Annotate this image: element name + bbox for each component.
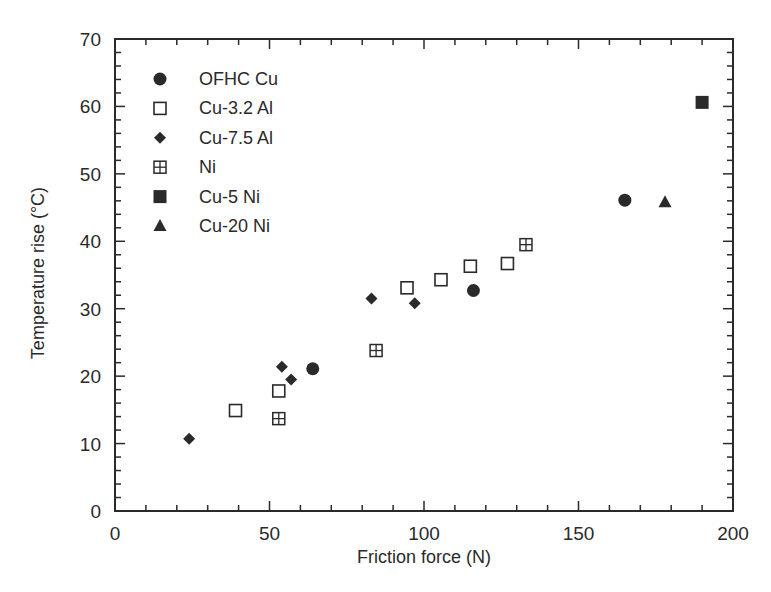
data-point-ofhc-cu — [306, 362, 319, 375]
data-point-cu-3-2-al — [273, 385, 285, 397]
legend-marker-ni-icon — [154, 161, 166, 173]
data-point-ni — [370, 345, 382, 357]
legend: OFHC CuCu-3.2 AlCu-7.5 AlNiCu-5 NiCu-20 … — [154, 69, 279, 236]
data-point-cu-7-5-al — [365, 293, 377, 305]
data-point-cu-7-5-al — [285, 374, 297, 386]
data-point-ofhc-cu — [467, 284, 480, 297]
data-point-ofhc-cu — [618, 194, 631, 207]
y-tick-label: 50 — [80, 164, 101, 185]
x-tick-label: 200 — [717, 523, 749, 544]
legend-marker-cu-7-5-al-icon — [154, 132, 166, 144]
data-points — [183, 96, 708, 445]
legend-marker-ofhc-cu-icon — [154, 73, 167, 86]
y-tick-label: 20 — [80, 366, 101, 387]
legend-label-cu-20-ni: Cu-20 Ni — [199, 216, 270, 236]
data-point-cu-3-2-al — [230, 405, 242, 417]
x-tick-label: 50 — [259, 523, 280, 544]
y-tick-label: 10 — [80, 434, 101, 455]
y-tick-label: 0 — [90, 501, 101, 522]
legend-marker-cu-20-ni-icon — [154, 219, 167, 231]
data-point-cu-7-5-al — [276, 361, 288, 373]
data-point-cu-20-ni — [659, 195, 672, 207]
legend-marker-cu-5-ni-icon — [154, 190, 167, 203]
data-point-cu-5-ni — [696, 96, 709, 109]
scatter-chart: 050100150200010203040506070 OFHC CuCu-3.… — [0, 0, 771, 592]
data-point-cu-3-2-al — [464, 260, 476, 272]
tick-labels: 050100150200010203040506070 — [80, 29, 749, 544]
y-axis-title: Temperature rise (°C) — [28, 187, 48, 359]
y-tick-label: 70 — [80, 29, 101, 50]
data-point-cu-3-2-al — [501, 258, 513, 270]
legend-label-ni: Ni — [199, 157, 216, 177]
x-tick-label: 100 — [408, 523, 440, 544]
x-axis-title: Friction force (N) — [357, 547, 491, 567]
legend-label-ofhc-cu: OFHC Cu — [199, 69, 278, 89]
legend-label-cu-3-2-al: Cu-3.2 Al — [199, 98, 273, 118]
y-tick-label: 30 — [80, 299, 101, 320]
data-point-ni — [273, 413, 285, 425]
data-point-cu-3-2-al — [435, 274, 447, 286]
data-point-cu-7-5-al — [409, 297, 421, 309]
data-point-cu-7-5-al — [183, 433, 195, 445]
legend-label-cu-5-ni: Cu-5 Ni — [199, 187, 260, 207]
x-tick-label: 0 — [110, 523, 121, 544]
x-tick-label: 150 — [563, 523, 595, 544]
data-point-cu-3-2-al — [401, 282, 413, 294]
data-point-ni — [520, 239, 532, 251]
legend-label-cu-7-5-al: Cu-7.5 Al — [199, 128, 273, 148]
y-tick-label: 40 — [80, 231, 101, 252]
legend-marker-cu-3-2-al-icon — [154, 102, 166, 114]
y-tick-label: 60 — [80, 96, 101, 117]
